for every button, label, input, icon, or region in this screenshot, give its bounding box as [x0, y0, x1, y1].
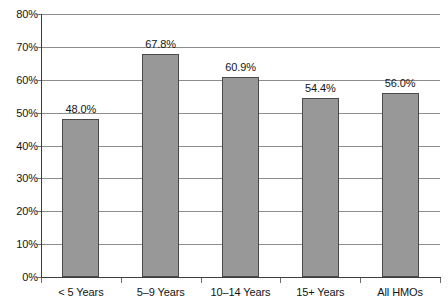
y-tick-label: 60%	[4, 75, 38, 86]
x-category-label: 15+ Years	[275, 286, 365, 298]
y-tick-label: 0%	[4, 272, 38, 283]
x-category-label: 10–14 Years	[196, 286, 286, 298]
x-category-label: All HMOs	[355, 286, 445, 298]
y-tick-label: 40%	[4, 141, 38, 152]
y-tick-label: 80%	[4, 9, 38, 20]
plot-area: 48.0%67.8%60.9%54.4%56.0%	[41, 14, 440, 277]
x-category-label: < 5 Years	[36, 286, 126, 298]
bar	[62, 119, 99, 277]
bar-chart: 0%10%20%30%40%50%60%70%80% 48.0%67.8%60.…	[0, 0, 448, 308]
x-tick-mark	[440, 278, 441, 283]
x-tick-mark	[201, 278, 202, 283]
bar-value-label: 60.9%	[211, 62, 271, 73]
x-tick-mark	[280, 278, 281, 283]
bar-value-label: 67.8%	[131, 39, 191, 50]
y-tick-label: 50%	[4, 108, 38, 119]
gridline	[41, 47, 440, 48]
x-tick-mark	[360, 278, 361, 283]
x-category-label: 5–9 Years	[116, 286, 206, 298]
bar	[222, 77, 259, 277]
gridline	[41, 14, 440, 15]
y-tick-label: 30%	[4, 173, 38, 184]
y-tick-label: 10%	[4, 239, 38, 250]
y-axis-line	[41, 14, 42, 278]
x-tick-mark	[41, 278, 42, 283]
bar	[302, 98, 339, 277]
y-axis-labels: 0%10%20%30%40%50%60%70%80%	[0, 0, 38, 308]
y-tick-label: 20%	[4, 206, 38, 217]
bar-value-label: 54.4%	[290, 83, 350, 94]
bar-value-label: 48.0%	[51, 104, 111, 115]
bar	[142, 54, 179, 277]
bar	[382, 93, 419, 277]
bar-value-label: 56.0%	[370, 78, 430, 89]
x-axis-line	[41, 277, 441, 278]
x-tick-mark	[121, 278, 122, 283]
y-tick-label: 70%	[4, 42, 38, 53]
